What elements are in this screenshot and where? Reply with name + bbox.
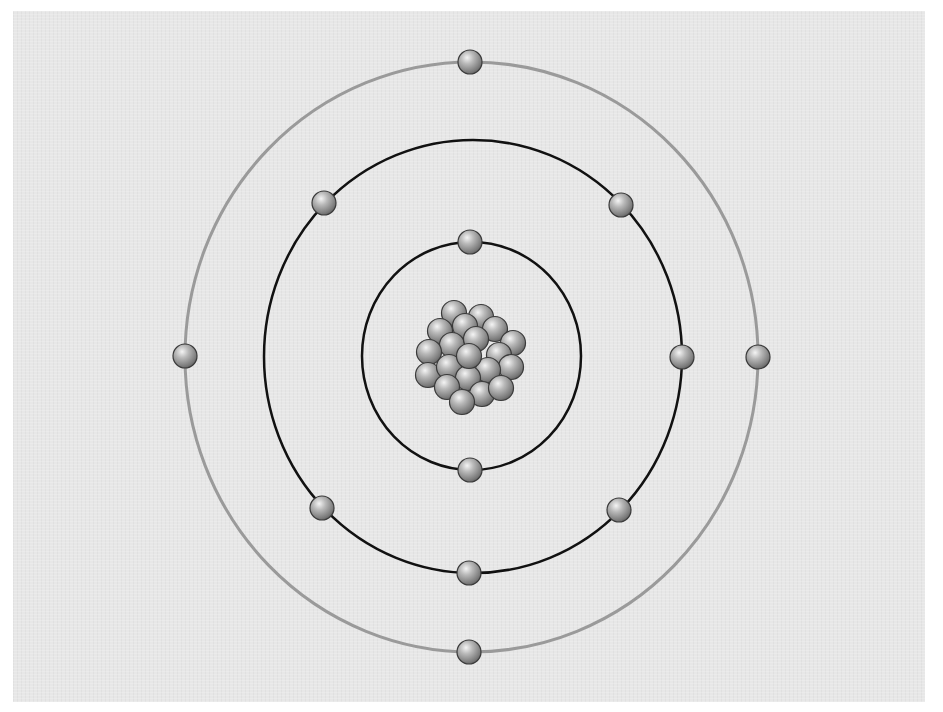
electron-shell-2 bbox=[609, 193, 633, 217]
nucleon bbox=[450, 390, 475, 415]
electron-shell-3 bbox=[173, 344, 197, 368]
electron-shell-1 bbox=[458, 230, 482, 254]
electron-shell-2 bbox=[607, 498, 631, 522]
electron-shell-1 bbox=[458, 458, 482, 482]
electron-shell-2 bbox=[670, 345, 694, 369]
nucleon bbox=[457, 344, 482, 369]
electron-shell-2 bbox=[310, 496, 334, 520]
bohr-atom-diagram bbox=[0, 0, 943, 712]
nucleus bbox=[416, 301, 526, 415]
nucleon bbox=[489, 376, 514, 401]
electron-shell-2 bbox=[312, 191, 336, 215]
electron-shell-3 bbox=[746, 345, 770, 369]
electron-shell-2 bbox=[457, 561, 481, 585]
electron-shell-3 bbox=[458, 50, 482, 74]
electron-shell-3 bbox=[457, 640, 481, 664]
